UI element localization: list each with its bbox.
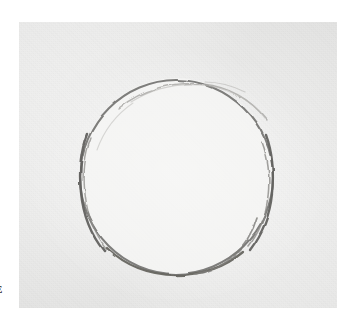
pencil-drawing bbox=[19, 22, 337, 308]
scanned-photo-plate bbox=[19, 22, 337, 308]
figure-canvas: E bbox=[0, 0, 349, 328]
clipped-caption-glyph: E bbox=[0, 283, 7, 295]
clipped-caption-glyph-text: E bbox=[0, 283, 2, 295]
